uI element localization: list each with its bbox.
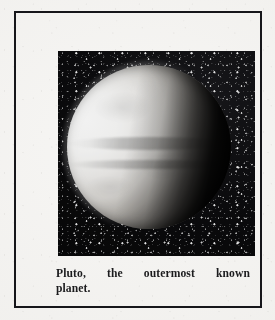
pluto-photograph (58, 51, 255, 256)
figure-plate-page: Pluto, the outermost known planet. (0, 0, 275, 320)
pluto-disc (67, 65, 231, 229)
caption-line-1: Pluto, the outermost known (56, 266, 250, 281)
pluto-band-upper (67, 137, 231, 150)
caption-word: the (107, 266, 123, 281)
pluto-band-group (67, 65, 231, 229)
pluto-band-lower (67, 160, 231, 169)
caption-word: known (216, 266, 250, 281)
caption-word: Pluto, (56, 266, 86, 281)
figure-caption: Pluto, the outermost known planet. (56, 266, 250, 296)
caption-line-2: planet. (56, 281, 250, 296)
caption-word: outermost (144, 266, 195, 281)
figure-border-frame: Pluto, the outermost known planet. (14, 11, 262, 308)
